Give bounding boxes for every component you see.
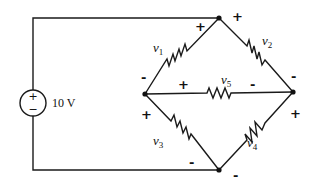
source-plus: + <box>28 90 37 103</box>
label-v4: v4 <box>247 135 258 152</box>
resistor-v5: v5 + - <box>145 72 293 98</box>
source-label: 10 V <box>52 96 76 110</box>
circuit-diagram: + − 10 V v1 + - v2 + - v5 + - v3 + - v4 … <box>0 0 313 185</box>
label-v2: v2 <box>262 33 272 50</box>
v3-plus: + <box>141 107 152 122</box>
node-bottom <box>216 167 221 172</box>
v5-minus: - <box>250 77 255 92</box>
resistor-v3: v3 + - <box>141 94 219 170</box>
v1-plus: + <box>195 19 206 34</box>
v2-minus: - <box>291 69 296 84</box>
node-left <box>142 91 147 96</box>
label-v3: v3 <box>153 133 164 150</box>
node-right <box>290 89 295 94</box>
v2-plus: + <box>232 9 243 24</box>
resistor-v4: v4 + - <box>219 92 301 183</box>
label-v1: v1 <box>153 40 163 57</box>
node-top <box>216 15 221 20</box>
v4-minus: - <box>233 168 238 183</box>
v3-minus: - <box>189 155 194 170</box>
v4-plus: + <box>290 106 301 121</box>
voltage-source: + − 10 V <box>20 90 76 116</box>
source-minus: − <box>28 103 37 116</box>
top-wire <box>33 18 219 90</box>
label-v5: v5 <box>221 72 232 89</box>
v1-minus: - <box>141 70 146 85</box>
v5-plus: + <box>178 77 189 92</box>
